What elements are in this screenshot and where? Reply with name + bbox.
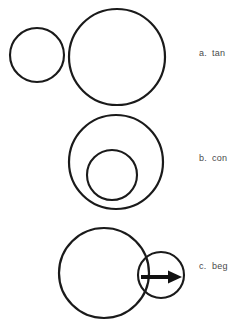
figure-c-label-letter: c.	[199, 261, 212, 272]
figure-c-group	[59, 228, 184, 318]
figure-a-label: a.tan	[199, 48, 225, 59]
figure-c-large-circle	[59, 228, 149, 318]
arrow-head	[168, 271, 182, 284]
figure-c-label-text: beg	[212, 261, 228, 272]
arrow-shaft	[141, 275, 170, 279]
figure-b-label-letter: b.	[199, 153, 212, 164]
figure-a-large-circle	[69, 9, 165, 105]
figure-b-inner-circle	[87, 150, 137, 200]
figure-a-group	[10, 9, 165, 105]
figure-a-label-text: tan	[212, 48, 225, 59]
figure-b-label: b.con	[199, 153, 227, 164]
figure-b-group	[69, 115, 163, 209]
figure-a-label-letter: a.	[199, 48, 212, 59]
figure-a-small-circle	[10, 28, 64, 82]
figure-b-label-text: con	[212, 153, 227, 164]
figure-c-label: c.beg	[199, 261, 228, 272]
figure-b-outer-circle	[69, 115, 163, 209]
